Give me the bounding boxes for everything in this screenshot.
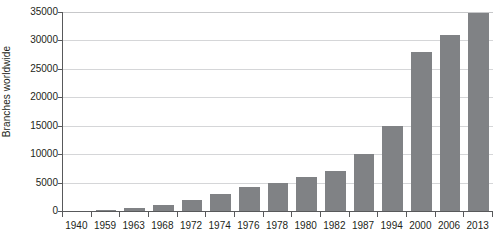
x-tick-label: 1982 <box>323 220 345 232</box>
x-tick-mark <box>205 212 206 217</box>
bar[interactable] <box>96 210 117 211</box>
bar[interactable] <box>325 171 346 211</box>
x-tick-label: 2006 <box>438 220 460 232</box>
bar-slot <box>63 12 92 211</box>
y-tick-label: 0 <box>14 206 58 216</box>
x-tick-mark <box>406 212 407 217</box>
x-tick-mark <box>320 212 321 217</box>
x-tick-mark <box>463 212 464 217</box>
bar-slot <box>321 12 350 211</box>
x-tick-label: 1963 <box>123 220 145 232</box>
bar[interactable] <box>440 35 461 211</box>
y-axis-title: Branches worldwide <box>0 0 14 210</box>
x-tick-mark <box>377 212 378 217</box>
bar[interactable] <box>411 52 432 211</box>
bar-slot <box>92 12 121 211</box>
x-tick-mark <box>91 212 92 217</box>
x-tick-mark <box>148 212 149 217</box>
bar-slot <box>407 12 436 211</box>
bar[interactable] <box>153 205 174 211</box>
x-tick-label: 1972 <box>180 220 202 232</box>
bar-slot <box>149 12 178 211</box>
bar[interactable] <box>382 126 403 211</box>
bar[interactable] <box>296 177 317 211</box>
bar-chart: Branches worldwide 050001000015000200002… <box>0 0 497 237</box>
bar-slot <box>235 12 264 211</box>
bar-slot <box>178 12 207 211</box>
x-tick-label: 1968 <box>151 220 173 232</box>
y-tick-label: 35000 <box>14 7 58 17</box>
x-tick-mark <box>263 212 264 217</box>
y-tick-label: 25000 <box>14 64 58 74</box>
bar-slot <box>292 12 321 211</box>
y-tick-label: 10000 <box>14 149 58 159</box>
plot-area <box>62 12 493 212</box>
bar-slot <box>436 12 465 211</box>
bar[interactable] <box>239 187 260 211</box>
y-tick-label: 15000 <box>14 121 58 131</box>
y-axis-tick-labels: 05000100001500020000250003000035000 <box>14 0 58 237</box>
x-axis: 1940195919631968197219741976197819801982… <box>62 212 493 237</box>
x-tick-mark <box>119 212 120 217</box>
bar[interactable] <box>268 183 289 211</box>
y-tick-label: 20000 <box>14 92 58 102</box>
y-tick-label: 30000 <box>14 35 58 45</box>
x-tick-label: 1987 <box>352 220 374 232</box>
bar-slot <box>264 12 293 211</box>
bar[interactable] <box>210 194 231 211</box>
bars-layer <box>63 12 493 211</box>
bar[interactable] <box>124 208 145 211</box>
x-tick-label: 1976 <box>237 220 259 232</box>
x-tick-mark <box>234 212 235 217</box>
bar[interactable] <box>182 200 203 211</box>
x-tick-mark <box>62 212 63 217</box>
bar-slot <box>120 12 149 211</box>
bar-slot <box>350 12 379 211</box>
x-tick-label: 1940 <box>65 220 87 232</box>
bar-slot <box>378 12 407 211</box>
x-tick-label: 1994 <box>381 220 403 232</box>
x-tick-label: 1978 <box>266 220 288 232</box>
x-tick-mark <box>291 212 292 217</box>
y-tick-label: 5000 <box>14 178 58 188</box>
x-tick-mark <box>177 212 178 217</box>
bar-slot <box>464 12 493 211</box>
bar[interactable] <box>354 154 375 211</box>
bar-slot <box>206 12 235 211</box>
x-tick-label: 1980 <box>295 220 317 232</box>
bar[interactable] <box>468 13 489 211</box>
x-tick-label: 1959 <box>94 220 116 232</box>
x-tick-label: 2013 <box>467 220 489 232</box>
x-tick-label: 2000 <box>409 220 431 232</box>
x-tick-mark <box>435 212 436 217</box>
x-tick-label: 1974 <box>209 220 231 232</box>
x-tick-mark <box>349 212 350 217</box>
x-tick-mark <box>492 212 493 217</box>
